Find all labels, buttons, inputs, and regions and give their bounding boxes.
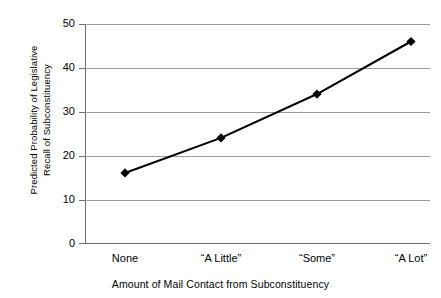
data-point-marker bbox=[406, 37, 415, 46]
y-tick-label-40: 40 bbox=[50, 62, 75, 74]
series-markers bbox=[120, 37, 415, 178]
y-tick-label-0: 0 bbox=[50, 238, 75, 250]
x-tick-label-none: None bbox=[112, 252, 138, 264]
series-line-group bbox=[85, 24, 430, 243]
gridline-0-baseline bbox=[85, 243, 430, 244]
x-tick-label-a-lot: “A Lot” bbox=[395, 252, 427, 264]
data-point-marker bbox=[120, 168, 129, 177]
line-chart: Predicted Probability of Legislative Rec… bbox=[0, 0, 441, 298]
y-tick-label-10: 10 bbox=[50, 194, 75, 206]
data-point-marker bbox=[216, 133, 225, 142]
y-tick-label-20: 20 bbox=[50, 150, 75, 162]
series-line bbox=[125, 42, 411, 173]
x-tick-label-a-little: “A Little” bbox=[201, 252, 241, 264]
data-point-marker bbox=[312, 89, 321, 98]
x-axis-title: Amount of Mail Contact from Subconstitue… bbox=[0, 278, 441, 291]
plot-area bbox=[85, 24, 430, 243]
y-axis-title-line-1: Predicted Probability of Legislative bbox=[27, 46, 40, 195]
x-tick-label-some: “Some” bbox=[299, 252, 335, 264]
y-tick-label-30: 30 bbox=[50, 106, 75, 118]
y-tick-label-50: 50 bbox=[50, 18, 75, 30]
